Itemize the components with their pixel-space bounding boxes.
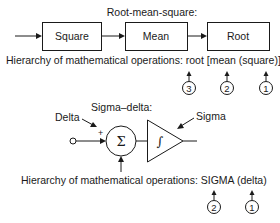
arrowhead-icon xyxy=(264,71,269,76)
svg-text:2: 2 xyxy=(224,83,229,94)
arrowhead-icon xyxy=(36,33,42,39)
arrowhead-icon xyxy=(177,123,184,129)
integral-symbol: ∫ xyxy=(157,134,164,149)
arrowhead-icon xyxy=(225,71,230,76)
input-node xyxy=(70,138,76,144)
arrowhead-icon xyxy=(201,33,207,39)
svg-text:1: 1 xyxy=(263,83,268,94)
square-block-label: Square xyxy=(55,30,89,42)
summing-junction: Σ xyxy=(106,126,136,156)
svg-text:1: 1 xyxy=(249,202,254,213)
root-block: Root xyxy=(208,23,270,51)
svg-text:2: 2 xyxy=(211,202,216,213)
svg-text:3: 3 xyxy=(186,83,191,94)
delta-pointer-line xyxy=(82,119,93,125)
square-block: Square xyxy=(43,23,102,51)
mean-block: Mean xyxy=(126,23,188,51)
sigma-label: Sigma xyxy=(196,110,226,122)
rms-title: Root-mean-square: xyxy=(107,6,197,18)
arrowhead-icon xyxy=(118,156,124,162)
arrowhead-icon xyxy=(119,33,125,39)
diagram-canvas: Root-mean-square: Square Mean Root Hiera… xyxy=(0,0,280,223)
sigma-delta-title: Sigma–delta: xyxy=(91,101,152,113)
arrowhead-icon xyxy=(100,138,106,144)
mean-block-label: Mean xyxy=(143,30,169,42)
rms-order-marker-2: 2 xyxy=(221,71,234,95)
arrowhead-icon xyxy=(212,190,217,195)
arrowhead-icon xyxy=(250,190,255,195)
sd-order-marker-1: 1 xyxy=(246,190,259,214)
plus-sign: + xyxy=(98,128,103,138)
arrowhead-icon xyxy=(187,71,192,76)
delta-label: Delta xyxy=(55,111,80,123)
integrator-block: ∫ xyxy=(148,120,184,162)
sd-order-marker-2: 2 xyxy=(208,190,221,214)
sigma-pointer-line xyxy=(181,118,194,126)
rms-order-marker-3: 3 xyxy=(183,71,196,95)
root-block-label: Root xyxy=(227,30,249,42)
rms-hierarchy-text: Hierarchy of mathematical operations: ro… xyxy=(6,54,280,66)
rms-order-marker-1: 1 xyxy=(260,71,273,95)
sigma-delta-hierarchy-text: Hierarchy of mathematical operations: SI… xyxy=(21,174,267,186)
sigma-symbol: Σ xyxy=(116,134,125,149)
